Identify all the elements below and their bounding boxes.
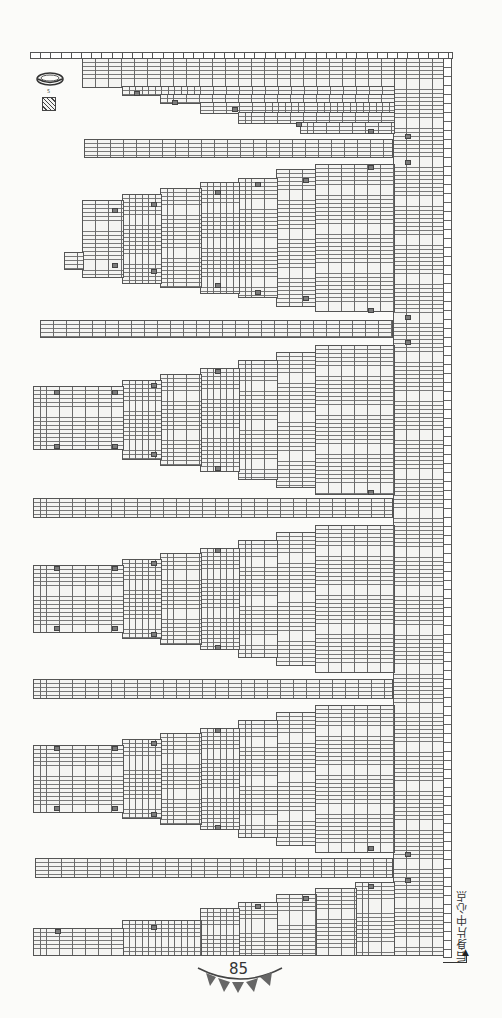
decrease-mark bbox=[296, 122, 302, 127]
strip-4 bbox=[33, 679, 393, 699]
decrease-mark bbox=[151, 202, 157, 207]
decrease-mark bbox=[215, 728, 221, 733]
decrease-mark bbox=[215, 548, 221, 553]
gore-2-step bbox=[200, 182, 240, 294]
decrease-mark bbox=[151, 269, 157, 274]
decrease-mark bbox=[54, 390, 60, 395]
gore-2-step bbox=[238, 178, 278, 298]
decrease-mark bbox=[134, 91, 140, 96]
decrease-mark bbox=[112, 566, 118, 571]
decrease-mark bbox=[368, 846, 374, 851]
gore-3-step bbox=[315, 345, 395, 495]
gore-5-step bbox=[315, 705, 395, 853]
strip-3 bbox=[33, 498, 393, 518]
decrease-mark bbox=[54, 746, 60, 751]
main-body-spine bbox=[393, 58, 444, 956]
decrease-mark bbox=[303, 178, 309, 183]
gore-1-step bbox=[82, 58, 395, 88]
gore-4-step bbox=[276, 532, 316, 666]
gore-6-step bbox=[238, 902, 278, 956]
decrease-mark bbox=[112, 444, 118, 449]
decrease-mark bbox=[151, 812, 157, 817]
decrease-mark bbox=[405, 878, 411, 883]
strip-2 bbox=[40, 320, 393, 338]
decrease-mark bbox=[112, 390, 118, 395]
gore-2-step bbox=[276, 169, 316, 307]
gore-6-step bbox=[276, 894, 317, 956]
decrease-mark bbox=[303, 896, 309, 901]
gore-5-step bbox=[238, 720, 278, 838]
decrease-mark bbox=[215, 825, 221, 830]
decrease-mark bbox=[255, 904, 261, 909]
decrease-mark bbox=[368, 129, 374, 134]
gore-6-step bbox=[355, 882, 395, 956]
gore-6-step bbox=[122, 920, 202, 956]
gore-2-step bbox=[160, 188, 202, 288]
row-count-column bbox=[443, 58, 452, 958]
gore-5-step bbox=[122, 739, 162, 819]
decrease-mark bbox=[215, 190, 221, 195]
gore-4-step bbox=[33, 565, 124, 633]
decrease-mark bbox=[215, 283, 221, 288]
decrease-mark bbox=[368, 884, 374, 889]
gore-3-step bbox=[33, 386, 124, 450]
decrease-mark bbox=[112, 263, 118, 268]
decrease-mark bbox=[151, 925, 157, 930]
gore-2-step bbox=[64, 252, 84, 270]
decrease-mark bbox=[112, 746, 118, 751]
strip-5 bbox=[35, 858, 393, 878]
decrease-mark bbox=[368, 165, 374, 170]
decrease-mark bbox=[405, 852, 411, 857]
hatched-square-icon bbox=[42, 97, 56, 111]
gore-3-step bbox=[276, 352, 316, 488]
decrease-mark bbox=[54, 806, 60, 811]
gore-5-step bbox=[160, 733, 202, 825]
gore-3-step bbox=[238, 360, 278, 480]
decrease-mark bbox=[255, 290, 261, 295]
gore-5-step bbox=[276, 712, 316, 846]
decrease-mark bbox=[232, 107, 238, 112]
decrease-mark bbox=[151, 452, 157, 457]
legend-note: 5 bbox=[47, 89, 50, 94]
decrease-mark bbox=[112, 806, 118, 811]
decrease-mark bbox=[112, 208, 118, 213]
gore-5-step bbox=[200, 728, 240, 830]
gore-4-step bbox=[122, 559, 162, 639]
page-number: 85 bbox=[229, 960, 248, 978]
decrease-mark bbox=[54, 626, 60, 631]
decrease-mark bbox=[151, 741, 157, 746]
decrease-mark bbox=[151, 632, 157, 637]
decrease-mark bbox=[215, 369, 221, 374]
decrease-mark bbox=[215, 645, 221, 650]
decrease-mark bbox=[151, 383, 157, 388]
decrease-mark bbox=[255, 182, 261, 187]
gore-3-step bbox=[160, 374, 202, 466]
arrow-up-icon: ▲ bbox=[462, 947, 469, 957]
strip-1 bbox=[84, 139, 393, 158]
gore-3-step bbox=[200, 368, 240, 472]
decrease-mark bbox=[55, 929, 61, 934]
gore-4-step bbox=[315, 525, 395, 673]
decrease-mark bbox=[112, 626, 118, 631]
gore-1-step bbox=[300, 122, 395, 134]
decrease-mark bbox=[405, 134, 411, 139]
decrease-mark bbox=[215, 466, 221, 471]
decrease-mark bbox=[405, 315, 411, 320]
gore-4-step bbox=[160, 553, 202, 645]
gore-6-step bbox=[315, 888, 357, 956]
gore-3-step bbox=[122, 380, 162, 460]
decrease-mark bbox=[172, 100, 178, 105]
gore-6-step bbox=[200, 908, 240, 956]
decrease-mark bbox=[54, 566, 60, 571]
decrease-mark bbox=[368, 490, 374, 495]
gore-4-step bbox=[200, 548, 240, 650]
decrease-mark bbox=[368, 308, 374, 313]
gore-2-step bbox=[315, 164, 395, 312]
decrease-mark bbox=[405, 340, 411, 345]
gore-6-step bbox=[33, 928, 124, 956]
decrease-mark bbox=[405, 160, 411, 165]
decrease-mark bbox=[54, 444, 60, 449]
gore-5-step bbox=[33, 745, 124, 813]
chain-ring-icon bbox=[35, 70, 65, 88]
decrease-mark bbox=[303, 296, 309, 301]
